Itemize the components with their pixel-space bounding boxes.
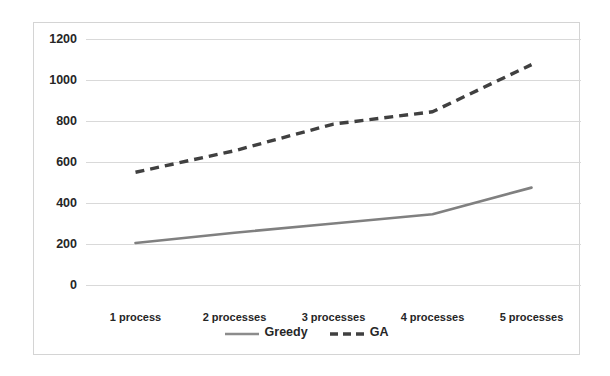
solid-line-swatch bbox=[225, 326, 259, 338]
dashed-line-swatch bbox=[330, 326, 364, 338]
gridline bbox=[86, 285, 581, 286]
legend-label-greedy: Greedy bbox=[265, 325, 308, 339]
legend-entry-greedy: Greedy bbox=[225, 325, 308, 339]
legend-label-ga: GA bbox=[370, 325, 389, 339]
chart-legend: Greedy GA bbox=[34, 325, 579, 339]
x-axis-tick-label: 1 process bbox=[86, 311, 185, 323]
x-axis-tick-label: 5 processes bbox=[482, 311, 581, 323]
legend-entry-ga: GA bbox=[330, 325, 389, 339]
y-axis-tick-label: 1200 bbox=[49, 32, 77, 46]
x-axis-tick-label: 3 processes bbox=[284, 311, 383, 323]
y-axis-tick-label: 1000 bbox=[49, 73, 77, 87]
y-axis-tick-label: 200 bbox=[56, 237, 77, 251]
x-axis-tick-label: 4 processes bbox=[383, 311, 482, 323]
series-layer bbox=[86, 39, 581, 285]
x-axis-tick-label: 2 processes bbox=[185, 311, 284, 323]
series-line-ga bbox=[136, 65, 532, 173]
y-axis-tick-label: 400 bbox=[56, 196, 77, 210]
x-axis-labels: 1 process2 processes3 processes4 process… bbox=[86, 311, 581, 323]
series-line-greedy bbox=[136, 188, 532, 243]
y-axis-tick-label: 800 bbox=[56, 114, 77, 128]
chart-container: 020040060080010001200 1 process2 process… bbox=[33, 22, 580, 355]
y-axis-tick-label: 0 bbox=[70, 278, 77, 292]
y-axis-tick-label: 600 bbox=[56, 155, 77, 169]
